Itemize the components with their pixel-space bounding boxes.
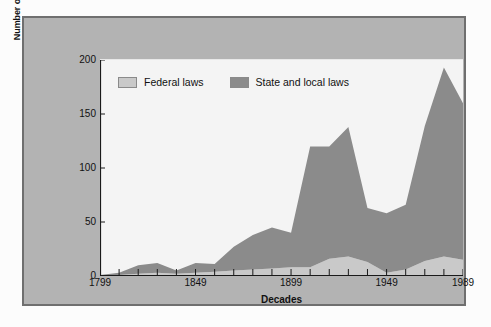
y-tick-label: 100: [62, 162, 96, 173]
x-tick-label: 1799: [89, 277, 111, 288]
legend-label-federal-laws: Federal laws: [144, 76, 204, 88]
y-axis-title: Number of laws ruled unconstitutional: [12, 0, 22, 70]
x-tick-label: 1989: [452, 277, 474, 288]
y-axis-ticks: 050100150200: [60, 59, 96, 275]
x-tick-label: 1899: [280, 277, 302, 288]
chart-panel: Number of laws ruled unconstitutional 05…: [22, 16, 466, 306]
legend-swatch-state-and-local-laws: [230, 77, 249, 88]
chart-legend: Federal laws State and local laws: [118, 76, 349, 88]
legend-item-state-and-local-laws: State and local laws: [230, 76, 349, 88]
legend-item-federal-laws: Federal laws: [118, 76, 204, 88]
y-tick-label: 150: [62, 108, 96, 119]
x-tick-label: 1949: [375, 277, 397, 288]
y-tick-label: 200: [62, 54, 96, 65]
legend-label-state-and-local-laws: State and local laws: [256, 76, 349, 88]
legend-swatch-federal-laws: [118, 77, 137, 88]
area-series-state-and-local-laws: [100, 68, 463, 275]
area-chart-svg: [100, 60, 463, 276]
y-tick-label: 50: [62, 216, 96, 227]
x-axis-ticks: 17991849189919491989: [100, 277, 463, 293]
x-axis-title: Decades: [100, 294, 463, 305]
plot-area: Federal laws State and local laws: [100, 59, 463, 276]
figure-page: Number of laws ruled unconstitutional 05…: [0, 0, 491, 327]
x-tick-label: 1849: [184, 277, 206, 288]
